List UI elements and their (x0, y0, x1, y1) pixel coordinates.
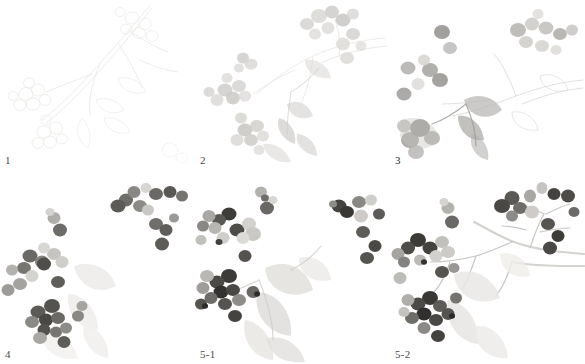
panel-3: 3 (390, 0, 585, 170)
panel-4: 4 (0, 170, 195, 364)
panel-2: 2 (195, 0, 390, 170)
panel-5-2: 5-2 (390, 170, 585, 364)
panel-1: 1 (0, 0, 195, 170)
panel-2-artwork (195, 0, 390, 170)
panel-label-5-1: 5-1 (200, 349, 216, 360)
figure-canvas: 1 (0, 0, 585, 364)
panel-label-1: 1 (5, 155, 11, 166)
panel-label-4: 4 (5, 349, 11, 360)
panel-label-3: 3 (395, 155, 401, 166)
panel-label-2: 2 (200, 155, 206, 166)
panel-3-artwork (390, 0, 585, 170)
panel-5-1: 5-1 (195, 170, 390, 364)
panel-4-artwork (0, 170, 195, 364)
panel-1-artwork (0, 0, 195, 170)
panel-5-1-artwork (195, 170, 390, 364)
panel-5-2-artwork (390, 170, 585, 364)
panel-label-5-2: 5-2 (395, 349, 411, 360)
